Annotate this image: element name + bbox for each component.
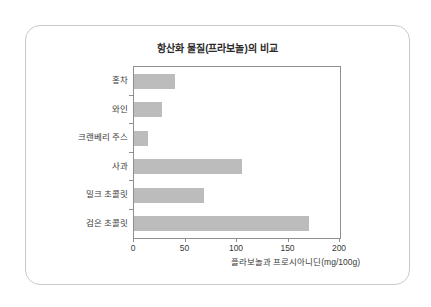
x-axis-tick-0 — [133, 238, 134, 242]
x-tick-label-3: 150 — [280, 243, 294, 253]
category-label-2: 크랜베리 주스 — [26, 130, 128, 144]
y-axis-tick-4 — [129, 180, 133, 181]
category-label-3: 사과 — [26, 159, 128, 173]
bar-3 — [134, 159, 242, 174]
bar-1 — [134, 102, 162, 117]
x-tick-label-4: 200 — [332, 243, 346, 253]
x-axis-label: 플라보놀과 프로시아니딘(mg/100g) — [26, 255, 360, 267]
bar-0 — [134, 74, 175, 89]
x-axis-tick-1 — [185, 238, 186, 242]
bar-2 — [134, 131, 148, 146]
category-label-0: 홍차 — [26, 73, 128, 87]
y-axis-tick-5 — [129, 209, 133, 210]
plot-area — [133, 66, 341, 239]
x-axis-tick-4 — [339, 238, 340, 242]
y-axis-tick-3 — [129, 152, 133, 153]
x-tick-label-2: 100 — [229, 243, 243, 253]
x-tick-label-1: 50 — [180, 243, 189, 253]
x-tick-label-0: 0 — [131, 243, 136, 253]
category-label-5: 검은 초콜릿 — [26, 216, 128, 230]
y-axis-tick-2 — [129, 123, 133, 124]
chart-card: 항산화 물질(프라보놀)의 비교 플라보놀과 프로시아니딘(mg/100g) 홍… — [25, 25, 410, 285]
category-label-1: 와인 — [26, 102, 128, 116]
bar-5 — [134, 216, 309, 231]
x-axis-tick-3 — [288, 238, 289, 242]
x-axis-tick-2 — [236, 238, 237, 242]
category-label-4: 밀크 초콜릿 — [26, 187, 128, 201]
bar-4 — [134, 188, 204, 203]
chart-title: 항산화 물질(프라보놀)의 비교 — [26, 40, 409, 55]
y-axis-tick-1 — [129, 95, 133, 96]
